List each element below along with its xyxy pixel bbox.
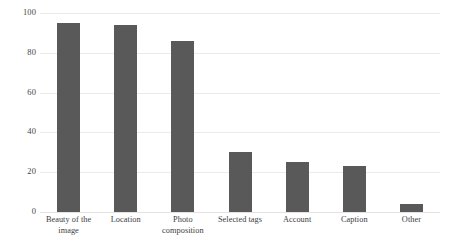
x-axis-tick-label: Location xyxy=(97,215,154,226)
x-axis-tick-label-line: Beauty of the xyxy=(40,215,97,226)
y-axis-tick-label: 0 xyxy=(2,207,36,216)
x-axis-tick-label-line: Caption xyxy=(326,215,383,226)
bar xyxy=(286,162,309,212)
y-axis-tick-label: 60 xyxy=(2,88,36,97)
x-axis-tick-label-line: Location xyxy=(97,215,154,226)
y-axis: 100806040200 xyxy=(0,13,36,212)
x-axis-tick-label-line: Photo xyxy=(154,215,211,226)
x-axis-tick-label-line: composition xyxy=(154,226,211,237)
x-axis-tick-label: Account xyxy=(269,215,326,226)
bar-series xyxy=(40,13,440,212)
bar-chart: 100806040200 Beauty of theimageLocationP… xyxy=(0,0,451,251)
y-axis-tick-label: 40 xyxy=(2,127,36,136)
x-axis-tick-label: Caption xyxy=(326,215,383,226)
bar xyxy=(57,23,80,212)
y-axis-tick-label: 80 xyxy=(2,48,36,57)
x-axis-tick-label: Selected tags xyxy=(212,215,269,226)
y-axis-tick-label: 20 xyxy=(2,167,36,176)
bar xyxy=(114,25,137,212)
bar xyxy=(171,41,194,212)
gridline xyxy=(40,212,440,213)
bar xyxy=(400,204,423,212)
x-axis-tick-label-line: Account xyxy=(269,215,326,226)
x-axis-tick-label: Photocomposition xyxy=(154,215,211,236)
plot-area xyxy=(40,13,440,212)
x-axis-tick-label-line: Other xyxy=(383,215,440,226)
x-axis-tick-label: Beauty of theimage xyxy=(40,215,97,236)
y-axis-tick-label: 100 xyxy=(2,8,36,17)
x-axis-tick-label-line: Selected tags xyxy=(212,215,269,226)
x-axis-tick-label-line: image xyxy=(40,226,97,237)
x-axis-tick-label: Other xyxy=(383,215,440,226)
bar xyxy=(343,166,366,212)
bar xyxy=(229,152,252,212)
x-axis: Beauty of theimageLocationPhotocompositi… xyxy=(40,215,440,249)
